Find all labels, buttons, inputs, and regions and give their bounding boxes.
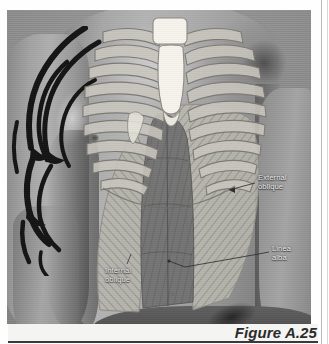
figure-caption: Figure A.25 [235, 324, 317, 341]
label-internal-oblique: Internal oblique [105, 266, 131, 284]
figure-image: External oblique Linea alba Internal obl… [7, 10, 311, 324]
textbook-page: External oblique Linea alba Internal obl… [0, 0, 329, 344]
label-linea-alba: Linea alba [272, 244, 291, 262]
caption-rule [8, 341, 318, 343]
tendon-sliver [128, 112, 144, 144]
anatomy-overlay [7, 10, 311, 324]
page-edge-rule [327, 0, 328, 344]
page-column-rule [321, 0, 322, 344]
label-external-oblique: External oblique [258, 173, 287, 191]
rectus-abdominis-region [141, 114, 194, 308]
